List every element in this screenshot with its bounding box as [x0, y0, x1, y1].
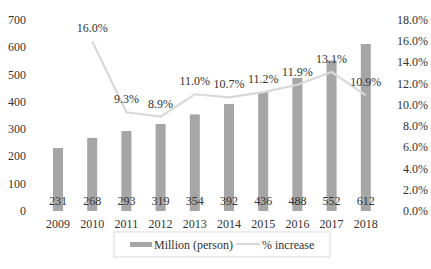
- bar-value-label: 231: [49, 194, 67, 208]
- combo-chart: 0100200300400500600700 0.0%2.0%4.0%6.0%8…: [0, 0, 431, 269]
- bar-value-label: 436: [254, 194, 272, 208]
- x-axis: 2009201020112012201320142015201620172018: [46, 217, 378, 231]
- bar-series: [53, 44, 371, 211]
- right-axis-tick: 12.0%: [397, 77, 428, 91]
- bar-value-label: 612: [357, 194, 375, 208]
- bar-value-label: 354: [186, 194, 204, 208]
- legend-label-bars: Million (person): [154, 238, 233, 252]
- bar-value-label: 268: [83, 194, 101, 208]
- right-axis-tick: 18.0%: [397, 13, 428, 27]
- right-axis-tick: 16.0%: [397, 34, 428, 48]
- bar-value-label: 293: [117, 194, 135, 208]
- line-value-label: 10.9%: [350, 75, 381, 89]
- line-value-label: 11.0%: [180, 74, 211, 88]
- line-value-label: 8.9%: [148, 97, 173, 111]
- left-axis-tick: 600: [8, 40, 26, 54]
- left-axis-tick: 0: [20, 204, 26, 218]
- x-axis-tick: 2014: [217, 217, 241, 231]
- x-axis-tick: 2015: [251, 217, 275, 231]
- line-value-label: 10.7%: [214, 77, 245, 91]
- bar-value-label: 488: [288, 194, 306, 208]
- x-axis-tick: 2011: [115, 217, 139, 231]
- x-axis-tick: 2017: [320, 217, 344, 231]
- legend-bar-swatch: [130, 242, 152, 247]
- legend-label-line: % increase: [262, 238, 314, 252]
- right-axis-tick: 14.0%: [397, 55, 428, 69]
- line-value-label: 13.1%: [316, 52, 347, 66]
- right-axis-tick: 10.0%: [397, 98, 428, 112]
- right-axis-tick: 8.0%: [403, 119, 428, 133]
- chart-container: 0100200300400500600700 0.0%2.0%4.0%6.0%8…: [0, 0, 431, 269]
- left-axis-tick: 100: [8, 177, 26, 191]
- bar: [292, 78, 302, 211]
- bar-value-label: 552: [323, 194, 341, 208]
- line-value-label: 11.9%: [282, 65, 313, 79]
- line-value-label: 9.3%: [114, 92, 139, 106]
- line-value-label: 16.0%: [77, 21, 108, 35]
- bar-value-label: 392: [220, 194, 238, 208]
- right-axis-tick: 4.0%: [403, 162, 428, 176]
- bar: [361, 44, 371, 211]
- bar-value-label: 319: [152, 194, 170, 208]
- x-axis-tick: 2018: [354, 217, 378, 231]
- right-axis: 0.0%2.0%4.0%6.0%8.0%10.0%12.0%14.0%16.0%…: [397, 13, 428, 218]
- x-axis-tick: 2012: [149, 217, 173, 231]
- line-value-label: 11.2%: [248, 72, 279, 86]
- left-axis-tick: 700: [8, 13, 26, 27]
- bar: [327, 60, 337, 211]
- x-axis-tick: 2013: [183, 217, 207, 231]
- x-axis-tick: 2010: [80, 217, 104, 231]
- left-axis-tick: 300: [8, 122, 26, 136]
- left-axis: 0100200300400500600700: [8, 13, 26, 218]
- x-axis-tick: 2016: [285, 217, 309, 231]
- x-axis-tick: 2009: [46, 217, 70, 231]
- right-axis-tick: 0.0%: [403, 204, 428, 218]
- left-axis-tick: 200: [8, 149, 26, 163]
- left-axis-tick: 500: [8, 68, 26, 82]
- bar-data-labels: 231268293319354392436488552612: [49, 194, 375, 208]
- left-axis-tick: 400: [8, 95, 26, 109]
- legend: Million (person) % increase: [114, 232, 330, 257]
- right-axis-tick: 2.0%: [403, 183, 428, 197]
- right-axis-tick: 6.0%: [403, 140, 428, 154]
